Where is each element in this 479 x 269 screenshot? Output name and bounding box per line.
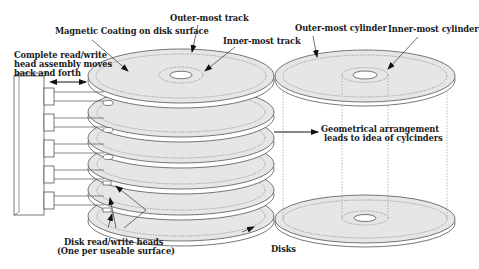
label-inner-most-track: Inner-most track [223,37,301,47]
cylinder-view [275,50,455,247]
platter-1 [88,49,274,108]
label-heads-line2: (One per useable surface) [57,247,175,257]
label-inner-most-cylinder: Inner-most cylinder [388,25,479,35]
label-disks: Disks [271,245,296,255]
label-outer-most-cylinder: Outer-most cylinder [295,24,387,34]
platter-stack [88,49,274,246]
label-outer-most-track: Outer-most track [170,14,249,24]
label-magnetic-coating: Magnetic Coating on disk surface [55,27,209,37]
label-head-assembly-line3: back and forth [14,69,81,79]
label-geometry-line2: leads to idea of cylcinders [324,134,443,144]
